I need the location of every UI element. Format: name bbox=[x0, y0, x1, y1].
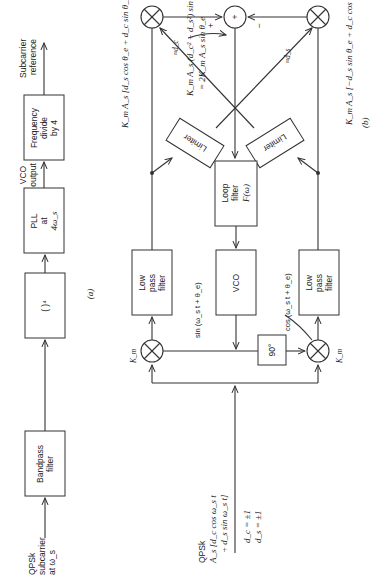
lower-lpf-label-2: pass bbox=[314, 274, 324, 292]
lower-lpf-label-1: Low bbox=[304, 274, 314, 290]
lower-mixer bbox=[307, 340, 329, 362]
freq-divide-label-1: Frequency bbox=[29, 107, 39, 148]
fourth-power-label: ( )⁴ bbox=[40, 300, 50, 312]
summer-output-expression-2: = 2K_m A_s sin θ_e bbox=[197, 17, 207, 90]
input-label-1: QPSk bbox=[27, 552, 37, 575]
summer-output-expression-1: K_m A_s (d_c² + d_s²) sin θ_e bbox=[185, 0, 195, 97]
output-label-2: reference bbox=[28, 39, 38, 75]
lower-km-label: K_m bbox=[335, 348, 344, 364]
upper-limiter-to-lower-mixer bbox=[216, 28, 312, 128]
vco-output-label-2: output bbox=[28, 163, 38, 187]
tap-to-upper-limiter bbox=[152, 158, 172, 173]
summer: + bbox=[224, 6, 246, 28]
pll-label-2: at bbox=[39, 217, 49, 225]
input-label-2: subcarrier bbox=[37, 537, 47, 575]
qpsk-label: QPSk bbox=[197, 540, 207, 563]
approx-dc-label: ≈d_c bbox=[171, 39, 180, 55]
phase-shift-label: 90° bbox=[267, 344, 277, 357]
bandpass-label-1: Bandpass bbox=[35, 445, 45, 483]
pll-label-1: PLL bbox=[29, 213, 39, 228]
upper-lpf-label-1: Low bbox=[137, 274, 147, 290]
dc-value: d_c = ±1 bbox=[242, 510, 252, 543]
qpsk-expr-1: A_s [d_c cos ω_s t bbox=[208, 495, 218, 564]
figure-b: K_m K_m 90° Low pass filter Low pass fil… bbox=[120, 0, 370, 564]
loop-filter-label-3: F(ω) bbox=[241, 184, 251, 203]
lower-branch-expression: K_m A_s [−d_s sin θ_e + d_c cos θ_e] bbox=[344, 0, 354, 126]
freq-divide-label-2: divide bbox=[39, 117, 49, 139]
upper-lpf-label-3: filter bbox=[157, 275, 167, 291]
ds-value: d_s = ±1 bbox=[253, 510, 263, 543]
upper-km-label: K_m bbox=[129, 348, 138, 364]
lower-limiter: Limiter bbox=[246, 118, 304, 168]
lower-right-mixer bbox=[307, 6, 329, 28]
vco-label: VCO bbox=[231, 273, 241, 292]
vco-output-label-1: VCO bbox=[18, 165, 28, 184]
summer-symbol: + bbox=[230, 14, 240, 19]
figure-a: QPSk subcarrier at ω_s Bandpass filter (… bbox=[18, 39, 95, 575]
input-label-3: at ω_s bbox=[47, 550, 57, 575]
loop-filter-label-2: filter bbox=[230, 185, 240, 201]
summer-plus-sign: + bbox=[206, 23, 216, 28]
upper-limiter: Limiter bbox=[166, 118, 224, 168]
caption-a: (a) bbox=[85, 289, 95, 300]
pll-label-3: 4ω_s bbox=[49, 211, 59, 230]
loop-filter-label-1: Loop bbox=[220, 183, 230, 202]
upper-mixer bbox=[141, 340, 163, 362]
bandpass-label-2: filter bbox=[45, 456, 55, 472]
cos-label: cos (ω_s t + θ_e) bbox=[283, 273, 292, 331]
costas-loop-diagram: QPSk subcarrier at ω_s Bandpass filter (… bbox=[0, 0, 381, 583]
qpsk-expr-2: + d_s sin ω_s t] bbox=[219, 494, 229, 553]
upper-lpf-label-2: pass bbox=[147, 274, 157, 292]
approx-ds-label: ≈d_s bbox=[283, 48, 292, 63]
summer-minus-sign: − bbox=[254, 23, 264, 28]
freq-divide-label-3: by 4 bbox=[49, 120, 59, 136]
sin-label: sin (ω_s t + θ_e) bbox=[193, 282, 202, 338]
figure-stage: QPSk subcarrier at ω_s Bandpass filter (… bbox=[0, 0, 381, 583]
lower-lpf-label-3: filter bbox=[324, 275, 334, 291]
output-label-1: Subcarrier bbox=[18, 39, 28, 78]
tap-to-lower-limiter bbox=[298, 158, 318, 173]
caption-b: (b) bbox=[360, 118, 370, 129]
upper-right-mixer bbox=[141, 6, 163, 28]
upper-branch-expression: K_m A_s [d_s cos θ_e + d_c sin θ_e] bbox=[120, 0, 130, 129]
